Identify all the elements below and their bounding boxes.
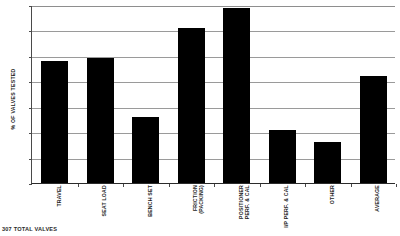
bar: [314, 142, 341, 183]
bar: [178, 28, 205, 183]
x-axis-label: TRAVEL: [57, 185, 67, 229]
plot-area: [31, 6, 395, 184]
x-axis-label: AVERAGE: [375, 185, 385, 229]
x-axis-label: I/P PERF. & CAL: [284, 185, 294, 229]
bars-group: [32, 6, 395, 183]
x-tick-mark: [396, 184, 397, 187]
chart-footnote: 307 TOTAL VALVES: [2, 226, 57, 232]
x-axis-label: POSITIONER PERF. & CAL: [239, 185, 249, 229]
bar-chart: % OF VALVES TESTED 010203040506070 TRAVE…: [0, 0, 400, 236]
bar: [41, 61, 68, 183]
bar: [87, 58, 114, 183]
bar: [132, 117, 159, 183]
y-axis-title: % OF VALVES TESTED: [10, 39, 16, 159]
x-axis-label: BENCH SET: [148, 185, 158, 229]
bar: [223, 8, 250, 183]
bar: [269, 130, 296, 183]
x-axis-category-labels: TRAVELSEAT LOADBENCH SETFRICTION (PACKIN…: [31, 185, 395, 229]
bar: [360, 76, 387, 183]
x-axis-label: FRICTION (PACKING): [193, 185, 203, 229]
x-axis-label: OTHER: [330, 185, 340, 229]
x-axis-label: SEAT LOAD: [102, 185, 112, 229]
